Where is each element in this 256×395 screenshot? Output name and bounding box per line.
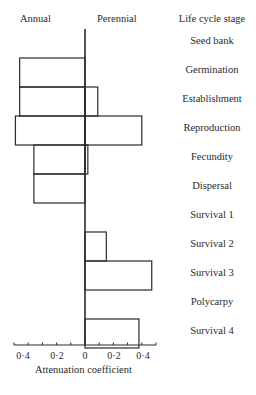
- annual-bar: [20, 87, 85, 116]
- annual-label: Annual: [20, 13, 51, 25]
- stage-label-germination: Germination: [168, 64, 256, 76]
- annual-bar: [34, 145, 85, 174]
- stage-label-seed-bank: Seed bank: [168, 35, 256, 47]
- stage-label-polycarpy: Polycarpy: [168, 296, 256, 308]
- x-tick-label: 0·4: [11, 350, 35, 361]
- stage-label-dispersal: Dispersal: [168, 180, 256, 192]
- perennial-label: Perennial: [97, 13, 137, 25]
- perennial-bar: [85, 116, 142, 145]
- annual-bar: [15, 116, 85, 145]
- stage-label-survival-1: Survival 1: [168, 209, 256, 221]
- x-tick-label: 0·2: [45, 350, 69, 361]
- x-tick-label: 0·2: [102, 350, 126, 361]
- x-tick-label: 0: [73, 350, 97, 361]
- stage-label-survival-2: Survival 2: [168, 238, 256, 250]
- stage-label-establishment: Establishment: [168, 93, 256, 105]
- perennial-bar: [85, 261, 152, 290]
- perennial-bar: [85, 319, 139, 348]
- stage-label-survival-3: Survival 3: [168, 267, 256, 279]
- x-axis-title: Attenuation coefficient: [35, 364, 132, 376]
- perennial-bar: [85, 232, 106, 261]
- stage-header: Life cycle stage: [168, 13, 256, 25]
- stage-label-fecundity: Fecundity: [168, 151, 256, 163]
- perennial-bar: [85, 87, 98, 116]
- annual-bar: [34, 174, 85, 203]
- stage-label-survival-4: Survival 4: [168, 325, 256, 337]
- stage-label-reproduction: Reproduction: [168, 122, 256, 134]
- annual-bar: [20, 58, 85, 87]
- x-tick-label: 0·4: [131, 350, 155, 361]
